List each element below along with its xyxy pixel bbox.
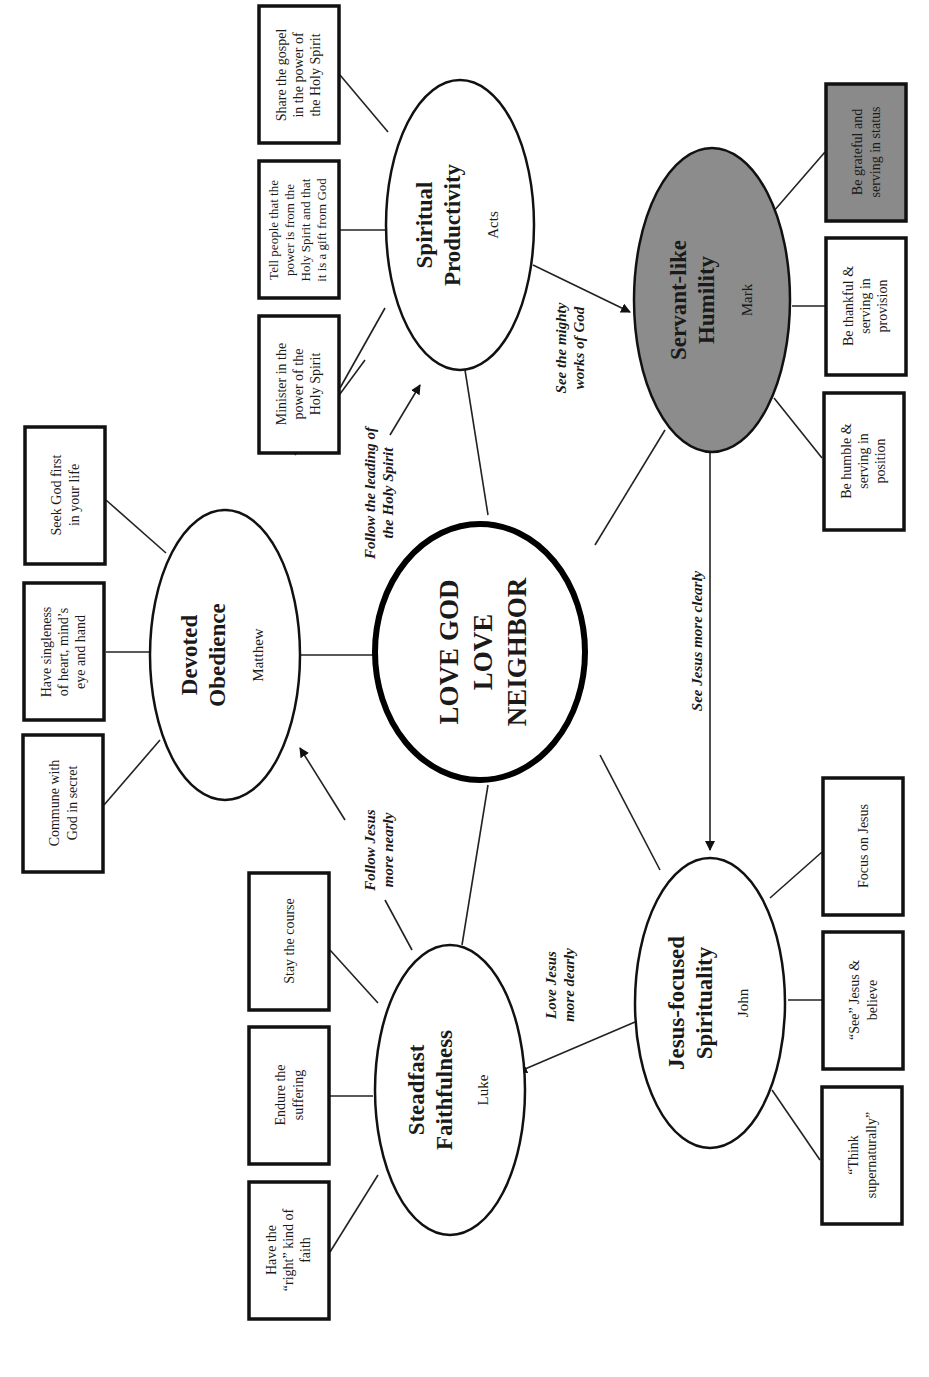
box-seek-god-first: Seek God first in your life (25, 427, 105, 564)
box-focus-on-jesus: Focus on Jesus (823, 778, 903, 915)
box-text: Have singleness (39, 607, 54, 698)
box-tell-people-power: Tell people that the power is from the H… (259, 161, 339, 298)
node-title-line1: Jesus-focused (664, 936, 689, 1070)
box-see-jesus-believe: “See” Jesus & believe (823, 932, 903, 1069)
node-book: Mark (739, 283, 755, 316)
connector-humility-box3 (774, 398, 822, 458)
edge-label-text: See the mighty (553, 302, 569, 393)
box-text: God in secret (65, 766, 80, 841)
box-right-kind-of-faith: Have the “right” kind of faith (249, 1182, 329, 1319)
center-line1: LOVE GOD (434, 580, 464, 725)
center-line2: LOVE (468, 614, 498, 691)
node-book: John (735, 988, 751, 1017)
node-book: Acts (485, 211, 501, 239)
box-text: supernaturally” (864, 1112, 879, 1198)
box-text: Stay the course (282, 898, 297, 984)
node-title-line2: Humility (694, 255, 719, 344)
box-text: Commune with (47, 760, 62, 847)
node-jesus-focused-spirituality: Jesus-focused Spirituality John Focus on… (635, 778, 903, 1224)
box-grateful-serving-status: Be grateful and serving in status (826, 84, 906, 221)
box-text: Share the gospel (274, 29, 289, 122)
box-text: serving in (858, 278, 873, 334)
connector-center-productivity (465, 370, 488, 515)
label-see-jesus-clearly: See Jesus more clearly (689, 570, 705, 711)
connector-center-humility (595, 430, 665, 545)
edge-label-text: Love Jesus (543, 951, 559, 1020)
box-singleness-of-heart: Have singleness of heart, mind’s eye and… (24, 583, 104, 720)
edge-label-text: See Jesus more clearly (689, 570, 705, 711)
connector-steadfast-box1 (330, 950, 378, 1003)
box-text: provision (875, 280, 890, 333)
label-follow-holy-spirit: Follow the leading of the Holy Spirit (362, 425, 396, 560)
connector-humility-box1 (773, 152, 825, 212)
node-title-line1: Spiritual (412, 182, 437, 269)
edge-label-text: Follow the leading of (362, 425, 378, 560)
center-line3: NEIGHBOR (502, 577, 532, 726)
box-stay-the-course: Stay the course (249, 873, 329, 1010)
edge-label-text: Follow Jesus (362, 809, 378, 891)
box-text: Holy Spirit (308, 353, 323, 416)
connector-devoted-box1 (106, 500, 166, 553)
arrow-productivity-to-humility (533, 265, 630, 312)
box-text: power of the (291, 349, 306, 420)
arrow-tail-steadfast (385, 900, 412, 950)
connector-productivity-box3 (340, 308, 385, 388)
node-devoted-obedience: Devoted Obedience Matthew Seek God first… (23, 427, 300, 872)
box-text: “right” kind of (281, 1208, 296, 1291)
connector-center-steadfast (462, 785, 488, 945)
arrow-devoted-to-productivity (390, 385, 420, 435)
edge-label-text: more nearly (380, 812, 396, 887)
box-text: in the power of (291, 32, 306, 117)
box-thankful-serving-provision: Be thankful & serving in provision (826, 238, 906, 375)
box-text: serving in status (868, 107, 883, 198)
box-text: Have the (264, 1225, 279, 1275)
box-text: position (873, 438, 888, 483)
edge-label-text: more dearly (561, 948, 577, 1022)
center-node: LOVE GOD LOVE NEIGHBOR (375, 524, 585, 780)
label-follow-jesus-nearly: Follow Jesus more nearly (362, 809, 396, 891)
node-book: Matthew (250, 628, 266, 681)
box-text: Be humble & (839, 423, 854, 499)
connector-center-jesus-focused (600, 755, 660, 870)
box-humble-serving-position: Be humble & serving in position (824, 393, 904, 530)
connector-productivity-box1 (340, 75, 388, 132)
cycle-diagram: LOVE GOD LOVE NEIGHBOR Devoted Obedience… (0, 0, 929, 1377)
edge-label-text: works of God (571, 306, 587, 389)
box-text: Be thankful & (841, 266, 856, 346)
box-endure-the-suffering: Endure the suffering (249, 1027, 329, 1164)
box-text: Tell people that the (266, 180, 281, 280)
edge-label-text: the Holy Spirit (380, 447, 396, 539)
box-text: serving in (856, 433, 871, 489)
box-text: “See” Jesus & (847, 960, 862, 1040)
box-text: of heart, mind’s (56, 608, 71, 696)
box-text: faith (298, 1237, 313, 1263)
node-title-line1: Devoted (177, 615, 202, 696)
box-share-the-gospel: Share the gospel in the power of the Hol… (259, 6, 339, 143)
box-text: suffering (291, 1070, 306, 1120)
connector-jesus-box3 (772, 1090, 820, 1160)
connector-devoted-box3 (104, 740, 160, 805)
connector-steadfast-box3 (330, 1175, 378, 1252)
box-commune-with-god: Commune with God in secret (23, 735, 103, 872)
box-text: Focus on Jesus (856, 804, 871, 888)
arrow-steadfast-to-devoted (300, 748, 345, 820)
node-title-line1: Steadfast (404, 1044, 429, 1135)
box-text: “Think (846, 1135, 861, 1175)
arrow-jesus-focused-to-steadfast (518, 1022, 635, 1072)
node-steadfast-faithfulness: Steadfast Faithfulness Luke Stay the cou… (249, 873, 525, 1319)
node-title-line1: Servant-like (666, 240, 691, 360)
box-text: Holy Spirit and that (298, 178, 313, 281)
box-text: power is from the (282, 184, 297, 276)
box-text: the Holy Spirit (308, 33, 323, 116)
node-title-line2: Productivity (440, 163, 465, 286)
label-see-mighty-works: See the mighty works of God (553, 302, 587, 393)
node-title-line2: Faithfulness (432, 1030, 457, 1150)
node-book: Luke (475, 1074, 491, 1105)
node-spiritual-productivity: Spiritual Productivity Acts Share the go… (259, 6, 534, 453)
box-text: eye and hand (73, 615, 88, 689)
node-title-line2: Obedience (205, 603, 230, 707)
box-think-supernaturally: “Think supernaturally” (822, 1087, 902, 1224)
box-text: believe (865, 980, 880, 1020)
node-servant-like-humility: Servant-like Humility Mark Be grateful a… (634, 84, 906, 530)
node-title-line2: Spirituality (692, 946, 717, 1059)
